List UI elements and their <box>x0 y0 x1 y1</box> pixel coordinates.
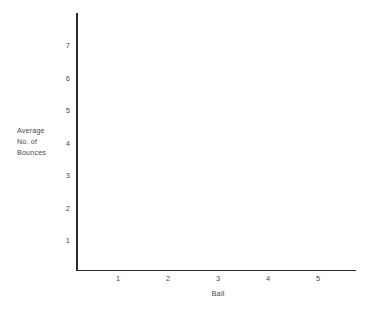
y-axis-label-line-3: Bounces <box>17 147 63 158</box>
y-tick-label: 2 <box>56 204 70 213</box>
y-tick-1: 1 <box>56 236 70 245</box>
x-tick-1: 1 <box>111 274 125 284</box>
y-tick-label: 7 <box>56 41 70 50</box>
x-tick-5: 5 <box>311 274 325 284</box>
x-tick-label: 4 <box>261 274 275 284</box>
x-tick-label: 2 <box>161 274 175 284</box>
x-tick-3: 3 <box>211 274 225 284</box>
y-tick-6: 6 <box>56 74 70 83</box>
plot-area <box>78 14 356 269</box>
chart-figure: 7 6 5 4 3 2 1 1 2 3 4 5 Average No. of B… <box>0 0 367 309</box>
y-tick-3: 3 <box>56 171 70 180</box>
x-axis-line <box>76 270 356 272</box>
y-axis-label-line-1: Average <box>17 125 63 136</box>
x-tick-label: 3 <box>211 274 225 284</box>
y-tick-5: 5 <box>56 106 70 115</box>
x-tick-4: 4 <box>261 274 275 284</box>
y-axis-label-line-2: No. of <box>17 136 63 147</box>
y-tick-label: 5 <box>56 106 70 115</box>
y-tick-label: 1 <box>56 236 70 245</box>
x-tick-2: 2 <box>161 274 175 284</box>
y-tick-label: 6 <box>56 74 70 83</box>
y-axis-label: Average No. of Bounces <box>17 125 63 159</box>
y-tick-label: 3 <box>56 171 70 180</box>
x-axis-label: Ball <box>196 289 240 299</box>
y-tick-2: 2 <box>56 204 70 213</box>
x-tick-label: 1 <box>111 274 125 284</box>
x-tick-label: 5 <box>311 274 325 284</box>
y-tick-7: 7 <box>56 41 70 50</box>
y-axis-line <box>76 13 78 271</box>
